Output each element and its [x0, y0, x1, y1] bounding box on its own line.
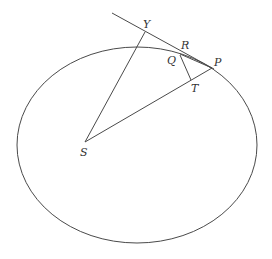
label-P: P	[213, 56, 222, 69]
label-R: R	[180, 39, 189, 52]
segment-SP	[85, 68, 212, 142]
ellipse-tangent-diagram: Y R Q P T S	[0, 0, 272, 259]
label-Q: Q	[167, 54, 176, 67]
label-Y: Y	[143, 18, 152, 31]
label-T: T	[191, 82, 200, 95]
tangent-line	[112, 13, 214, 69]
ellipse	[17, 47, 257, 243]
segment-QT	[180, 55, 191, 80]
label-S: S	[80, 146, 88, 159]
